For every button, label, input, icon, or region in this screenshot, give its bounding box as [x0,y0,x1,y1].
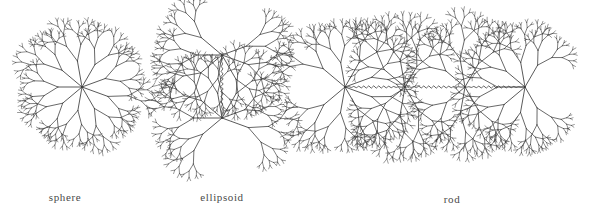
shape-sphere [12,17,162,155]
morphology-figure: sphere ellipsoid rod [0,0,607,213]
label-rod: rod [444,193,460,205]
morphology-diagram-canvas [0,0,607,213]
shape-rod [270,7,577,164]
shape-ellipsoid [145,0,302,181]
label-ellipsoid: ellipsoid [200,191,243,203]
label-sphere: sphere [49,191,81,203]
